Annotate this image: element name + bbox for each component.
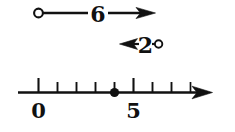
axis-label-5: 5 bbox=[126, 98, 141, 123]
vector-2-group: 2 bbox=[120, 32, 163, 58]
number-line-figure: 6 2 bbox=[0, 0, 235, 132]
vector-6-label: 6 bbox=[90, 1, 105, 27]
vector-2-open-circle-icon bbox=[155, 40, 162, 47]
figure-canvas: 6 2 bbox=[0, 0, 235, 132]
axis-label-0: 0 bbox=[31, 98, 46, 123]
vector-2-label: 2 bbox=[138, 32, 153, 58]
number-line-axis: 0 5 bbox=[18, 78, 213, 123]
vector-6-open-circle-icon bbox=[34, 9, 43, 18]
vector-6-group: 6 bbox=[34, 1, 155, 27]
resultant-point-marker bbox=[110, 88, 119, 97]
